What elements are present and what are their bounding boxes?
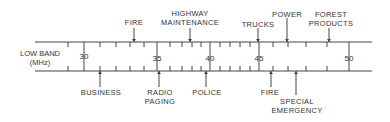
label-forest-products: FOREST PRODUCTS [309, 10, 354, 28]
label-text: EMERGENCY [271, 106, 322, 115]
tick-label-30: 30 [80, 52, 89, 61]
axis-label-line1: LOW BAND [20, 49, 60, 58]
label-special-emergency: SPECIAL EMERGENCY [271, 97, 322, 115]
label-text: SPECIAL [271, 97, 322, 106]
minor-ticks-bottom [68, 66, 327, 71]
label-police: POLICE [192, 88, 221, 97]
label-text: FOREST [309, 10, 354, 19]
axis-label: LOW BAND (MHz) [20, 49, 60, 67]
label-text: BUSINESS [81, 88, 121, 97]
label-fire-top: FIRE [125, 18, 143, 27]
tick-label-40: 40 [206, 54, 215, 63]
label-power: POWER [272, 10, 302, 19]
label-business: BUSINESS [81, 88, 121, 97]
label-text: FIRE [261, 88, 279, 97]
tick-label-45: 45 [255, 54, 264, 63]
label-text: POWER [272, 10, 302, 19]
minor-ticks-top [68, 42, 327, 47]
label-text: POLICE [192, 88, 221, 97]
low-band-frequency-diagram: LOW BAND (MHz) 30 35 40 45 50 FIRE HIGHW… [0, 0, 390, 122]
axis-label-line2: (MHz) [20, 58, 60, 67]
label-highway-maintenance: HIGHWAY MAINTENANCE [161, 9, 219, 27]
label-text: RADIO [145, 88, 175, 97]
label-radio-paging: RADIO PAGING [145, 88, 175, 106]
label-text: FIRE [125, 18, 143, 27]
tick-label-35: 35 [153, 54, 162, 63]
label-text: HIGHWAY [161, 9, 219, 18]
label-text: PRODUCTS [309, 19, 354, 28]
label-text: MAINTENANCE [161, 18, 219, 27]
tick-label-50: 50 [345, 54, 354, 63]
label-text: PAGING [145, 97, 175, 106]
label-fire-bottom: FIRE [261, 88, 279, 97]
label-text: TRUCKS [242, 20, 275, 29]
label-trucks: TRUCKS [242, 20, 275, 29]
